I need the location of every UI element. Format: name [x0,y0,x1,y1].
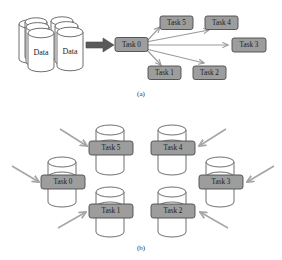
panel-b-node-task2[interactable]: Task 2 [151,187,195,237]
panel-b-node-task5[interactable]: Task 5 [89,125,133,175]
panel-b-task0-label: Task 0 [54,178,73,186]
panel-a-node-task3[interactable]: Task 3 [232,38,266,52]
panel-b-task4-label: Task 4 [164,144,183,152]
panel-b-task5-label: Task 5 [102,144,121,152]
panel-a-edges [146,27,228,65]
data-cylinder-front-left: Data [28,28,54,72]
panel-a-task5-label: Task 5 [167,19,186,27]
edge-task0-to-task1 [146,49,161,65]
edge-task0-to-task2 [146,49,204,63]
panel-a-task0-label: Task 0 [122,41,141,49]
panel-b-node-task3[interactable]: Task 3 [199,157,243,207]
panel-b: Task 5 Task 4 Task 0 Task 3 [12,125,274,252]
panel-a-node-task1[interactable]: Task 1 [148,66,181,80]
arrow-into-task5 [60,129,87,146]
two-panel-task-diagram: Data Data Task 0 [0,0,282,260]
panel-a: Data Data Task 0 [19,16,266,98]
arrow-into-task1 [58,212,86,228]
panel-b-task1-label: Task 1 [102,207,121,215]
panel-a-caption: (a) [137,90,145,98]
panel-a-node-task5[interactable]: Task 5 [160,16,193,30]
panel-b-task2-label: Task 2 [164,207,183,215]
data-cylinder-front-right: Data [57,27,83,71]
arrow-into-task4 [199,129,226,146]
data-label-right: Data [62,47,78,56]
panel-a-node-task4[interactable]: Task 4 [205,16,238,30]
panel-a-task3-label: Task 3 [240,41,259,49]
block-arrow-data-to-task0 [86,38,114,52]
panel-b-task3-label: Task 3 [212,178,231,186]
panel-a-task2-label: Task 2 [200,69,219,77]
panel-a-task1-label: Task 1 [155,69,174,77]
arrow-into-task3 [247,166,274,182]
panel-a-node-task2[interactable]: Task 2 [193,66,226,80]
panel-b-node-task4[interactable]: Task 4 [151,125,195,175]
panel-b-node-task0[interactable]: Task 0 [41,157,85,207]
panel-b-node-task1[interactable]: Task 1 [89,187,133,237]
arrow-into-task0 [12,166,39,182]
data-store-stack: Data Data [19,17,83,72]
data-label-left: Data [33,48,49,57]
arrow-into-task2 [200,212,228,228]
panel-b-caption: (b) [137,244,146,252]
panel-a-task4-label: Task 4 [212,19,231,27]
panel-a-node-task0[interactable]: Task 0 [115,38,148,52]
